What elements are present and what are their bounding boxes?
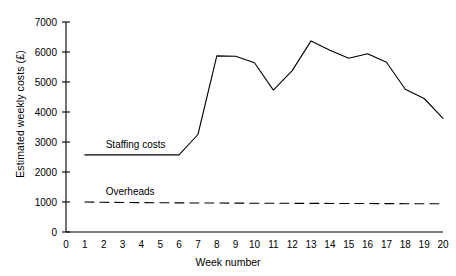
y-tick-label: 1000 [35,197,58,208]
x-tick-label: 20 [437,239,449,250]
x-tick-label: 5 [157,239,163,250]
x-tick-label: 18 [400,239,412,250]
x-tick-label: 13 [305,239,317,250]
y-tick-label: 5000 [35,77,58,88]
y-axis-ticks: 01000200030004000500060007000 [35,17,70,238]
x-tick-label: 6 [176,239,182,250]
plot-area: 01000200030004000500060007000 0123456789… [0,0,456,276]
x-tick-label: 12 [287,239,299,250]
x-tick-label: 2 [101,239,107,250]
x-tick-label: 9 [233,239,239,250]
x-tick-label: 0 [63,239,69,250]
series-line-0 [85,41,443,155]
y-tick-label: 6000 [35,47,58,58]
x-tick-label: 3 [120,239,126,250]
x-tick-label: 11 [268,239,279,250]
x-tick-label: 10 [249,239,261,250]
x-tick-label: 7 [195,239,201,250]
y-tick-label: 2000 [35,167,58,178]
series-label-1: Overheads [106,186,155,197]
x-axis-ticks: 01234567891011121314151617181920 [63,239,449,250]
y-tick-label: 3000 [35,137,58,148]
x-tick-label: 17 [381,239,393,250]
x-tick-label: 19 [419,239,431,250]
x-tick-label: 4 [139,239,145,250]
x-tick-label: 16 [362,239,374,250]
y-tick-label: 0 [51,227,57,238]
x-tick-label: 14 [324,239,336,250]
series-inline-labels: Staffing costsOverheads [106,139,166,197]
data-series-group [85,41,443,204]
x-tick-label: 1 [82,239,88,250]
x-tick-label: 15 [343,239,355,250]
line-chart: Estimated weekly costs (£) Week number 0… [0,0,456,276]
series-label-0: Staffing costs [106,139,166,150]
y-tick-label: 7000 [35,17,58,28]
series-line-1 [85,202,443,204]
y-tick-label: 4000 [35,107,58,118]
x-tick-label: 8 [214,239,220,250]
